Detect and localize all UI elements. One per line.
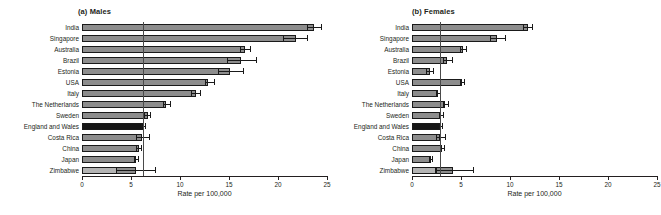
y-axis-label-costa-rica: Costa Rica: [378, 132, 409, 143]
x-tick: [180, 176, 181, 180]
x-tick: [278, 176, 279, 180]
bar-india: [82, 24, 314, 32]
error-bar: [307, 27, 321, 28]
error-bar-cap-low: [136, 145, 137, 151]
y-axis-label-the-netherlands: The Netherlands: [362, 99, 409, 110]
y-axis-label-australia: Australia: [54, 44, 79, 55]
x-tick-label: 10: [176, 181, 183, 189]
bar-india: [412, 24, 528, 32]
error-bar-cap-high: [532, 24, 533, 30]
error-bar-cap-high: [432, 156, 433, 162]
bar-row: The Netherlands: [82, 99, 327, 110]
bar-row: Zimbabwe: [82, 165, 327, 176]
bar-italy: [412, 90, 438, 98]
x-tick: [229, 176, 230, 180]
error-bar-cap-low: [163, 101, 164, 107]
error-bar-cap-high: [149, 134, 150, 140]
error-bar-cap-low: [307, 24, 308, 30]
y-axis-label-zimbabwe: Zimbabwe: [50, 165, 79, 176]
plot-area-males: IndiaSingaporeAustraliaBrazilEstoniaUSAI…: [82, 22, 327, 179]
bar-costa-rica: [82, 134, 142, 142]
y-axis-label-india: India: [395, 22, 409, 33]
bar-row: England and Wales: [412, 121, 657, 132]
y-axis-label-japan: Japan: [62, 154, 79, 165]
bar-japan: [82, 156, 136, 164]
error-bar-cap-high: [200, 90, 201, 96]
y-axis-label-usa: USA: [66, 77, 79, 88]
y-axis-label-singapore: Singapore: [380, 33, 409, 44]
bar-rows-males: IndiaSingaporeAustraliaBrazilEstoniaUSAI…: [82, 22, 327, 176]
x-axis-title-females: Rate per 100,000: [507, 190, 561, 197]
y-axis-label-brazil: Brazil: [63, 55, 79, 66]
error-bar-cap-low: [144, 112, 145, 118]
bar-row: England and Wales: [82, 121, 327, 132]
x-tick-label: 25: [653, 181, 660, 189]
bar-row: India: [82, 22, 327, 33]
error-bar-cap-low: [218, 68, 219, 74]
bar-row: Sweden: [82, 110, 327, 121]
x-tick-label: 0: [410, 181, 414, 189]
x-tick: [608, 176, 609, 180]
error-bar-cap-low: [429, 156, 430, 162]
bar-row: India: [412, 22, 657, 33]
y-axis-label-england-and-wales: England and Wales: [354, 121, 409, 132]
y-axis-label-japan: Japan: [392, 154, 409, 165]
error-bar-cap-high: [155, 167, 156, 173]
bar-row: Costa Rica: [412, 132, 657, 143]
bar-england-and-wales: [412, 123, 440, 131]
x-tick: [657, 176, 658, 180]
error-bar-cap-high: [250, 46, 251, 52]
x-tick: [559, 176, 560, 180]
x-tick-label: 20: [604, 181, 611, 189]
plot-area-females: IndiaSingaporeAustraliaBrazilEstoniaUSAI…: [412, 22, 657, 179]
error-bar-cap-low: [426, 68, 427, 74]
bar-row: Italy: [412, 88, 657, 99]
bar-australia: [412, 46, 463, 54]
panel-males: (a) Males IndiaSingaporeAustraliaBrazilE…: [0, 0, 327, 215]
x-tick: [510, 176, 511, 180]
error-bar-cap-high: [442, 123, 443, 129]
error-bar-cap-high: [466, 46, 467, 52]
bar-singapore: [82, 35, 296, 43]
bar-row: Singapore: [82, 33, 327, 44]
error-bar-cap-high: [445, 134, 446, 140]
error-bar-cap-high: [243, 68, 244, 74]
x-tick: [412, 176, 413, 180]
bar-row: Brazil: [412, 55, 657, 66]
error-bar-cap-high: [452, 57, 453, 63]
error-bar-cap-high: [214, 79, 215, 85]
y-axis-label-estonia: Estonia: [388, 66, 409, 77]
error-bar-cap-high: [448, 101, 449, 107]
error-bar: [227, 60, 256, 61]
y-axis-label-the-netherlands: The Netherlands: [32, 99, 79, 110]
x-tick-label: 0: [80, 181, 84, 189]
error-bar-cap-low: [436, 134, 437, 140]
error-bar: [116, 170, 155, 171]
error-bar-cap-high: [433, 68, 434, 74]
error-bar-cap-low: [490, 35, 491, 41]
x-tick: [461, 176, 462, 180]
error-bar-cap-low: [116, 167, 117, 173]
x-tick-label: 15: [225, 181, 232, 189]
x-axis-title-males: Rate per 100,000: [177, 190, 231, 197]
bar-sweden: [412, 112, 441, 120]
bar-singapore: [412, 35, 497, 43]
bar-sweden: [82, 112, 148, 120]
y-axis-label-india: India: [65, 22, 79, 33]
x-tick-label: 5: [129, 181, 133, 189]
bar-row: Sweden: [412, 110, 657, 121]
x-tick-label: 5: [459, 181, 463, 189]
panel-title-females: (b) Females: [412, 7, 455, 16]
bar-row: Brazil: [82, 55, 327, 66]
y-axis-label-australia: Australia: [384, 44, 409, 55]
bar-row: Costa Rica: [82, 132, 327, 143]
bar-inner-segment: [413, 168, 437, 174]
x-tick-label: 10: [506, 181, 513, 189]
bar-row: Zimbabwe: [412, 165, 657, 176]
y-axis-label-italy: Italy: [397, 88, 409, 99]
bar-row: China: [412, 143, 657, 154]
bar-china: [82, 145, 139, 153]
reference-line-males: [143, 22, 144, 176]
error-bar: [284, 38, 308, 39]
